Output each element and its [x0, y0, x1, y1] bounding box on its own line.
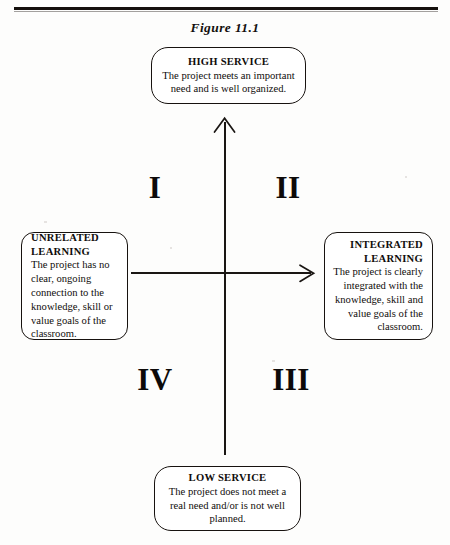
scan-artifact [170, 247, 172, 249]
integrated-learning-box: INTEGRATED LEARNING The project is clear… [324, 232, 433, 340]
figure-caption: Figure 11.1 [0, 20, 450, 36]
learning-axis-line [131, 272, 311, 274]
quadrant-two-label: II [262, 172, 314, 203]
quadrant-four-label: IV [124, 364, 186, 395]
unrelated-learning-heading: UNRELATED LEARNING [31, 231, 120, 259]
page-header-rule [14, 7, 438, 10]
low-service-body: The project does not meet a real need an… [162, 485, 293, 526]
scan-artifact [44, 221, 47, 223]
figure-page: Figure 11.1 I II III IV HIGH SERVICE The… [0, 0, 450, 545]
scan-artifact [405, 176, 407, 178]
quadrant-one-label: I [130, 172, 180, 203]
low-service-heading: LOW SERVICE [162, 471, 293, 485]
high-service-body: The project meets an important need and … [159, 69, 298, 97]
integrated-learning-heading: INTEGRATED LEARNING [332, 238, 423, 266]
low-service-box: LOW SERVICE The project does not meet a … [154, 466, 301, 531]
service-axis-line [224, 122, 226, 455]
integrated-learning-body: The project is clearly integrated with t… [332, 265, 423, 334]
high-service-heading: HIGH SERVICE [159, 55, 298, 69]
unrelated-learning-box: UNRELATED LEARNING The project has no cl… [21, 232, 128, 340]
high-service-box: HIGH SERVICE The project meets an import… [151, 47, 306, 104]
page-header-rule-shadow [14, 11, 438, 12]
quadrant-three-label: III [258, 364, 324, 395]
unrelated-learning-body: The project has no clear, ongoing connec… [31, 258, 120, 341]
